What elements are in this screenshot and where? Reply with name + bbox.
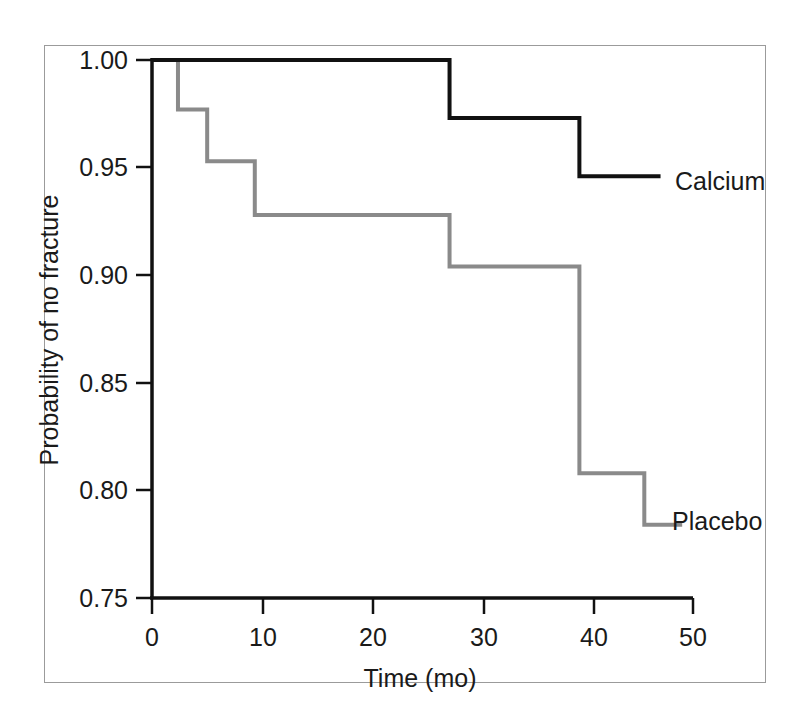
x-tick-label-0: 0 [145, 623, 159, 651]
y-axis-ticks [136, 60, 152, 598]
y-tick-label-0-90: 0.90 [79, 261, 128, 289]
x-tick-label-50: 50 [679, 623, 707, 651]
y-axis-title: Probability of no fracture [35, 195, 63, 466]
x-axis-ticks [152, 598, 693, 614]
kaplan-meier-chart: 1.00 0.95 0.90 0.85 0.80 0.75 0 10 20 30… [0, 0, 805, 721]
figure-container: 1.00 0.95 0.90 0.85 0.80 0.75 0 10 20 30… [0, 0, 805, 721]
x-tick-label-10: 10 [249, 623, 277, 651]
x-axis-title: Time (mo) [364, 664, 477, 692]
x-tick-label-20: 20 [359, 623, 387, 651]
y-tick-label-0-95: 0.95 [79, 153, 128, 181]
placebo-survival-curve [155, 60, 682, 525]
x-tick-label-30: 30 [470, 623, 498, 651]
y-tick-label-1-00: 1.00 [79, 46, 128, 74]
series-label-placebo: Placebo [672, 507, 762, 535]
y-tick-label-0-75: 0.75 [79, 584, 128, 612]
y-tick-label-0-80: 0.80 [79, 476, 128, 504]
calcium-survival-curve [152, 60, 661, 176]
y-tick-label-0-85: 0.85 [79, 369, 128, 397]
series-label-calcium: Calcium [675, 167, 765, 195]
x-tick-label-40: 40 [580, 623, 608, 651]
